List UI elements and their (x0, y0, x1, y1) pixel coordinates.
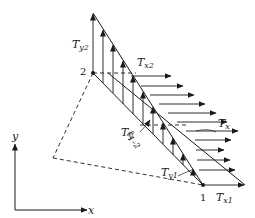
ty-envelope (93, 13, 203, 185)
node-2-dot (91, 71, 95, 75)
node-1-dot (201, 183, 205, 187)
label-tx: Tx (218, 118, 230, 131)
ty-arrows (93, 14, 193, 175)
xy-axes (15, 144, 87, 210)
axis-x-label: x (88, 205, 94, 216)
node-1-label: 1 (200, 193, 206, 203)
label-ty2: Ty2 (72, 39, 89, 52)
label-tx2: Tx2 (137, 57, 154, 70)
label-ty1: Ty1 (161, 167, 178, 180)
label-leaders (140, 120, 216, 176)
traction-diagram (0, 0, 255, 218)
label-tx1: Tx1 (216, 192, 233, 205)
axis-y-label: y (12, 131, 18, 142)
node-2-label: 2 (80, 67, 86, 77)
